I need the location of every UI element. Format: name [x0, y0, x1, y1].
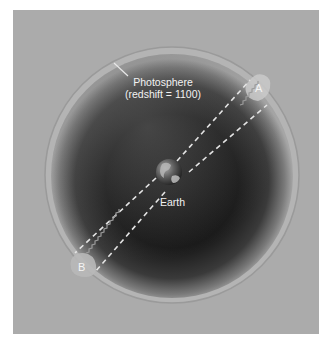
photosphere-label: Photosphere (redshift = 1100) — [123, 76, 203, 100]
photosphere-label-line2: (redshift = 1100) — [123, 88, 203, 100]
earth-globe-icon — [156, 159, 182, 185]
region-a-label: A — [255, 82, 262, 94]
earth-label: Earth — [160, 196, 185, 208]
diagram-canvas — [0, 0, 332, 352]
region-b-label: B — [78, 261, 85, 273]
photosphere-label-line1: Photosphere — [123, 76, 203, 88]
